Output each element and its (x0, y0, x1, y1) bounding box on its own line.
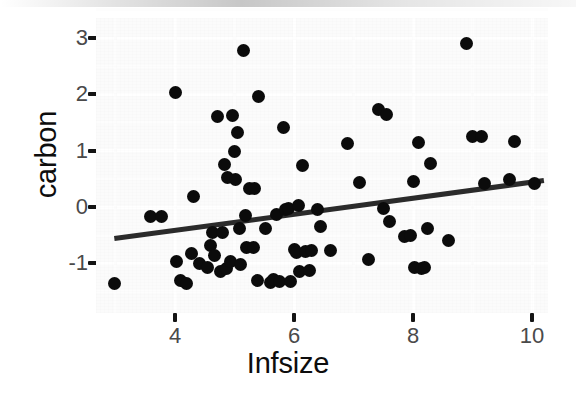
data-point (421, 222, 434, 235)
regression-line (96, 18, 548, 313)
y-tick-label: 1 (48, 140, 88, 162)
y-tick-label: 2 (48, 83, 88, 105)
data-point (475, 130, 488, 143)
data-point (383, 215, 396, 228)
data-point (404, 229, 417, 242)
data-point (216, 226, 229, 239)
data-point (201, 261, 214, 274)
data-point (277, 121, 290, 134)
data-point (377, 202, 390, 215)
x-tick-mark (411, 313, 415, 322)
data-point (233, 222, 246, 235)
data-point (231, 126, 244, 139)
y-tick-label: -1 (48, 252, 88, 274)
x-tick-label: 4 (145, 325, 205, 347)
gridline-horizontal-minor (96, 8, 548, 11)
y-tick-label: 3 (48, 27, 88, 49)
data-point (228, 145, 241, 158)
data-point (508, 135, 521, 148)
scatter-plot-figure: carbon 3210-1 Infsize 46810 (0, 0, 576, 399)
data-point (226, 109, 239, 122)
x-tick-mark (292, 313, 296, 322)
data-point (407, 175, 420, 188)
data-point (252, 90, 265, 103)
data-point (169, 86, 182, 99)
x-tick-label: 6 (264, 325, 324, 347)
data-point (155, 210, 168, 223)
data-point (424, 157, 437, 170)
data-point (208, 249, 221, 262)
scan-artifact-top-edge (0, 0, 576, 7)
data-point (234, 258, 247, 271)
data-point (478, 177, 491, 190)
data-point (187, 190, 200, 203)
y-tick-label: 0 (48, 196, 88, 218)
data-point (362, 253, 375, 266)
data-point (239, 209, 252, 222)
data-point (108, 277, 121, 290)
x-tick-mark (173, 313, 177, 322)
plot-panel (96, 18, 548, 313)
data-point (296, 159, 309, 172)
data-point (170, 255, 183, 268)
data-point (237, 44, 250, 57)
data-point (251, 274, 264, 287)
data-point (380, 108, 393, 121)
data-point (503, 173, 516, 186)
x-tick-label: 8 (383, 325, 443, 347)
x-tick-mark (530, 313, 534, 322)
x-tick-label: 10 (502, 325, 562, 347)
data-point (303, 264, 316, 277)
x-axis-title: Infsize (0, 347, 576, 380)
data-point (247, 241, 260, 254)
